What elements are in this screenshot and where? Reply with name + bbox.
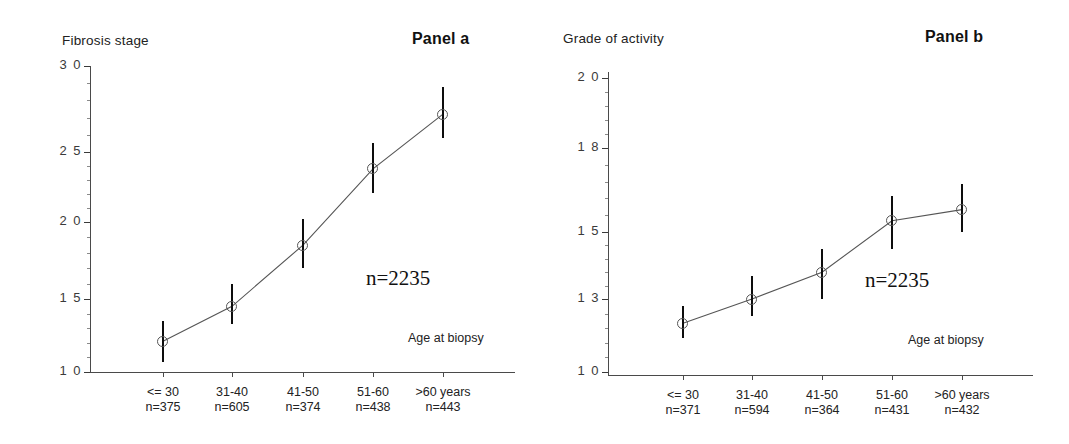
panel-b-total-n-label: n=2235 — [865, 268, 929, 293]
panel-b: Grade of activity Panel b 2 01 81 51 31 … — [535, 0, 1069, 444]
data-point-marker — [886, 215, 897, 226]
panel-a-x-axis-caption: Age at biopsy — [408, 331, 484, 345]
figure-container: Fibrosis stage Panel a 3 02 52 01 51 0 <… — [0, 0, 1069, 444]
panel-b-x-axis-caption: Age at biopsy — [908, 333, 984, 347]
data-point-marker — [297, 240, 308, 251]
panel-a-series-line — [0, 0, 535, 444]
data-point-marker — [437, 109, 448, 120]
panel-a-total-n-label: n=2235 — [366, 266, 430, 291]
panel-a-plot-area: 3 02 52 01 51 0 <= 30n=37531-40n=60541-5… — [0, 0, 535, 444]
data-point-marker — [746, 294, 757, 305]
data-point-marker — [367, 163, 378, 174]
data-point-marker — [816, 267, 827, 278]
data-point-marker — [157, 336, 168, 347]
data-point-marker — [956, 204, 967, 215]
panel-b-plot-area: 2 01 81 51 31 0 <= 30n=37131-40n=59441-5… — [535, 0, 1069, 444]
panel-b-series-line — [535, 0, 1069, 444]
panel-a: Fibrosis stage Panel a 3 02 52 01 51 0 <… — [0, 0, 535, 444]
data-point-marker — [677, 318, 688, 329]
data-point-marker — [226, 301, 237, 312]
